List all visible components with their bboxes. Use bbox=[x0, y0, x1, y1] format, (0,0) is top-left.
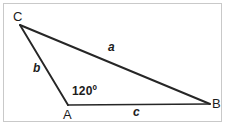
vertex-label-a: A bbox=[63, 108, 72, 121]
side-b-line-CA bbox=[20, 25, 68, 105]
vertex-label-c: C bbox=[13, 10, 23, 23]
angle-label-at-a: 120º bbox=[72, 85, 97, 97]
vertex-label-b: B bbox=[212, 97, 221, 110]
side-a-line-CB bbox=[20, 25, 210, 104]
side-label-b: b bbox=[33, 62, 41, 74]
side-label-c: c bbox=[133, 106, 140, 118]
side-label-a: a bbox=[108, 41, 115, 53]
triangle-figure: C A B a b c 120º bbox=[0, 0, 227, 130]
